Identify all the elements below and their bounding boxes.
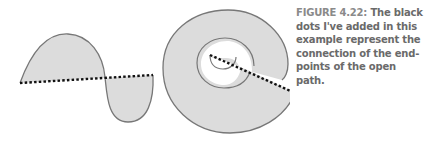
figure-caption-text: The black dots I've added in this exampl… bbox=[296, 7, 423, 86]
figure-caption: FIGURE 4.22: The black dots I've added i… bbox=[296, 6, 424, 88]
spiral-shape bbox=[163, 10, 290, 133]
figure-label: FIGURE 4.22: bbox=[296, 7, 367, 18]
figure-illustration bbox=[0, 0, 290, 141]
wave-shape bbox=[20, 34, 153, 122]
